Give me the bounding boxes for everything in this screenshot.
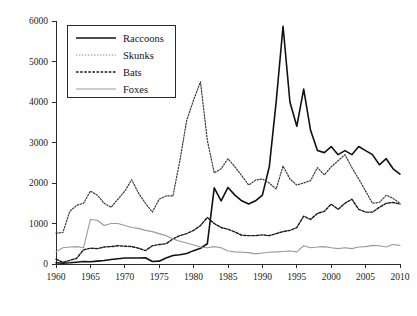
x-tick-label: 1965	[81, 272, 100, 282]
x-tick-label: 2005	[356, 272, 375, 282]
chart-legend: RaccoonsSkunksBatsFoxes	[67, 25, 175, 97]
y-tick-label: 0	[43, 259, 48, 269]
series-line-foxes	[56, 219, 400, 253]
x-tick-label: 1990	[253, 272, 272, 282]
y-tick-label: 1000	[29, 219, 48, 229]
legend-label-raccoons: Raccoons	[123, 33, 164, 44]
y-tick-label: 4000	[29, 97, 48, 107]
y-tick-label: 2000	[29, 178, 48, 188]
y-tick-label: 6000	[29, 16, 48, 26]
y-tick-label: 3000	[29, 138, 48, 148]
legend-label-bats: Bats	[123, 67, 142, 78]
x-tick-label: 2000	[322, 272, 341, 282]
x-axis-ticks: 1960196519701975198019851990199520002005…	[47, 264, 410, 282]
y-tick-label: 5000	[29, 57, 48, 67]
x-tick-label: 1980	[184, 272, 203, 282]
series-line-bats	[56, 199, 400, 262]
x-tick-label: 1995	[287, 272, 306, 282]
legend-label-skunks: Skunks	[123, 50, 154, 61]
line-chart: 0100020003000400050006000 19601965197019…	[0, 0, 417, 316]
x-tick-label: 1970	[115, 272, 134, 282]
x-tick-label: 1985	[219, 272, 238, 282]
x-tick-label: 1960	[47, 272, 66, 282]
series-line-skunks	[56, 82, 400, 233]
y-axis-ticks: 0100020003000400050006000	[29, 16, 56, 269]
chart-container: 0100020003000400050006000 19601965197019…	[0, 0, 417, 316]
legend-label-foxes: Foxes	[123, 84, 148, 95]
x-tick-label: 1975	[150, 272, 169, 282]
x-tick-label: 2010	[391, 272, 410, 282]
